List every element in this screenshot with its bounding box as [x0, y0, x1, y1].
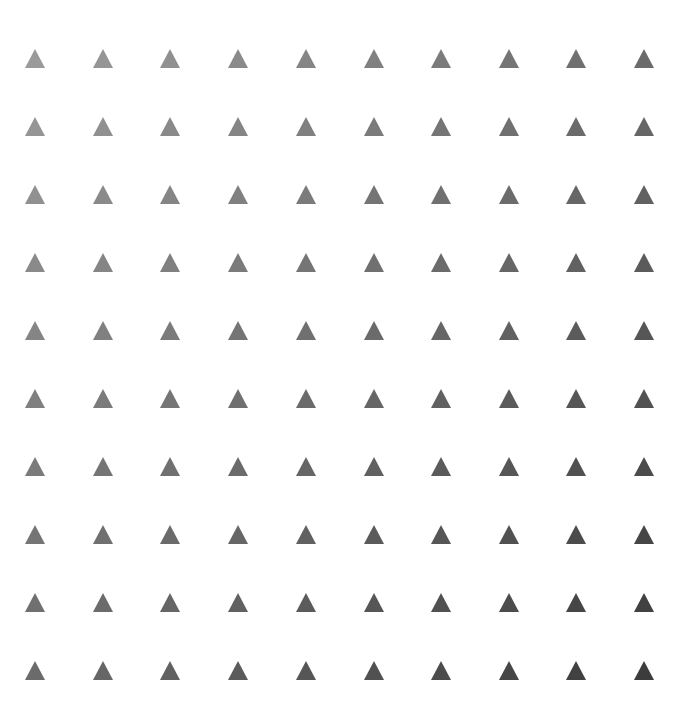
triangle-icon — [634, 457, 654, 476]
triangle-icon — [228, 661, 248, 680]
triangle-icon — [566, 253, 586, 272]
triangle-icon — [25, 117, 45, 136]
triangle-icon — [296, 253, 316, 272]
triangle-icon — [228, 185, 248, 204]
triangle-icon — [228, 593, 248, 612]
triangle-icon — [499, 321, 519, 340]
triangle-icon — [93, 525, 113, 544]
triangle-icon — [296, 117, 316, 136]
triangle-icon — [25, 185, 45, 204]
triangle-icon — [93, 593, 113, 612]
triangle-icon — [634, 593, 654, 612]
triangle-icon — [499, 117, 519, 136]
triangle-icon — [364, 525, 384, 544]
triangle-icon — [93, 457, 113, 476]
triangle-icon — [499, 253, 519, 272]
triangle-icon — [228, 457, 248, 476]
triangle-icon — [296, 661, 316, 680]
triangle-icon — [566, 117, 586, 136]
triangle-icon — [634, 389, 654, 408]
triangle-icon — [634, 185, 654, 204]
triangle-icon — [160, 661, 180, 680]
triangle-icon — [228, 49, 248, 68]
triangle-icon — [566, 321, 586, 340]
triangle-icon — [364, 253, 384, 272]
triangle-icon — [431, 389, 451, 408]
triangle-icon — [296, 321, 316, 340]
triangle-icon — [25, 253, 45, 272]
triangle-icon — [566, 525, 586, 544]
triangle-icon — [25, 321, 45, 340]
triangle-grid — [0, 0, 697, 728]
triangle-icon — [228, 253, 248, 272]
triangle-icon — [364, 457, 384, 476]
triangle-icon — [431, 661, 451, 680]
triangle-icon — [160, 389, 180, 408]
triangle-icon — [431, 117, 451, 136]
triangle-icon — [566, 661, 586, 680]
triangle-icon — [160, 117, 180, 136]
triangle-icon — [228, 389, 248, 408]
triangle-icon — [566, 457, 586, 476]
triangle-icon — [296, 389, 316, 408]
triangle-icon — [634, 117, 654, 136]
triangle-icon — [228, 525, 248, 544]
triangle-icon — [296, 593, 316, 612]
triangle-icon — [25, 457, 45, 476]
triangle-icon — [160, 525, 180, 544]
triangle-icon — [634, 525, 654, 544]
triangle-icon — [228, 321, 248, 340]
triangle-icon — [296, 457, 316, 476]
triangle-icon — [566, 49, 586, 68]
triangle-icon — [93, 661, 113, 680]
triangle-icon — [499, 593, 519, 612]
triangle-icon — [93, 49, 113, 68]
triangle-icon — [228, 117, 248, 136]
triangle-icon — [160, 49, 180, 68]
triangle-icon — [364, 389, 384, 408]
triangle-icon — [93, 321, 113, 340]
triangle-icon — [93, 185, 113, 204]
triangle-icon — [431, 525, 451, 544]
triangle-icon — [634, 661, 654, 680]
triangle-icon — [160, 457, 180, 476]
triangle-icon — [25, 593, 45, 612]
triangle-icon — [364, 593, 384, 612]
triangle-icon — [364, 117, 384, 136]
triangle-icon — [25, 525, 45, 544]
triangle-icon — [499, 525, 519, 544]
triangle-icon — [93, 117, 113, 136]
triangle-icon — [431, 457, 451, 476]
triangle-icon — [499, 661, 519, 680]
triangle-icon — [160, 593, 180, 612]
triangle-icon — [634, 321, 654, 340]
triangle-icon — [296, 49, 316, 68]
triangle-icon — [160, 253, 180, 272]
triangle-icon — [566, 185, 586, 204]
triangle-icon — [93, 253, 113, 272]
triangle-icon — [499, 457, 519, 476]
triangle-icon — [431, 49, 451, 68]
triangle-icon — [566, 593, 586, 612]
triangle-icon — [364, 49, 384, 68]
triangle-icon — [431, 253, 451, 272]
triangle-icon — [160, 321, 180, 340]
triangle-icon — [566, 389, 586, 408]
triangle-icon — [431, 185, 451, 204]
triangle-icon — [364, 185, 384, 204]
triangle-icon — [499, 389, 519, 408]
triangle-icon — [431, 593, 451, 612]
triangle-icon — [296, 525, 316, 544]
triangle-icon — [499, 185, 519, 204]
triangle-icon — [499, 49, 519, 68]
triangle-icon — [25, 49, 45, 68]
triangle-icon — [296, 185, 316, 204]
triangle-icon — [25, 389, 45, 408]
triangle-icon — [25, 661, 45, 680]
triangle-icon — [160, 185, 180, 204]
triangle-icon — [364, 321, 384, 340]
triangle-icon — [634, 253, 654, 272]
triangle-icon — [431, 321, 451, 340]
triangle-icon — [93, 389, 113, 408]
triangle-icon — [364, 661, 384, 680]
